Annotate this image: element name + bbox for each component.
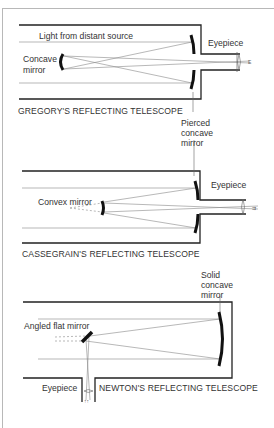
cassegrain-eyepiece-label: Eyepiece [211,180,246,190]
gregory-eyepiece-label: Eyepiece [208,38,243,48]
gregory-eyepiece-lens-icon [238,54,241,70]
gregory-primary-label-line3: mirror [181,138,203,148]
newton-eyepiece-lens-icon [84,390,93,393]
cassegrain-primary-mirror-icon [195,181,198,200]
newton-title: NEWTON'S REFLECTING TELESCOPE [99,383,258,393]
gregory-primary-label-line1: Pierced [181,118,210,128]
gregory-primary-mirror-icon [191,35,194,54]
gregory-title: GREGORY'S REFLECTING TELESCOPE [18,106,183,116]
gregory-secondary-mirror-icon [61,54,64,70]
cassegrain-eyepiece-lens-icon [242,199,245,215]
svg-text:↑↑: ↑↑ [84,398,89,404]
newton-primary-mirror-icon [219,312,223,366]
cassegrain-title: CASSEGRAIN'S REFLECTING TELESCOPE [22,249,200,259]
svg-text:⇉: ⇉ [252,205,256,211]
newton-secondary-label: Angled flat mirror [24,321,89,331]
newton-eyepiece-label: Eyepiece [42,383,77,393]
gregory-primary-label-line2: concave [181,128,213,138]
svg-text:E: E [248,59,252,65]
cassegrain-telescope-drawing: ⇉ [22,140,258,243]
newton-primary-label-line1: Solid [201,270,220,280]
cassegrain-convex-mirror-icon [102,201,104,215]
newton-flat-mirror-icon [82,332,92,342]
gregory-secondary-label-line2: mirror [23,65,45,75]
gregory-light-label: Light from distant source [39,31,133,41]
gregory-secondary-label-line1: Concave [23,54,57,64]
newton-primary-label-line2: concave [201,280,233,290]
newton-primary-label-line3: mirror [201,290,223,300]
cassegrain-secondary-label: Convex mirror [38,197,92,207]
